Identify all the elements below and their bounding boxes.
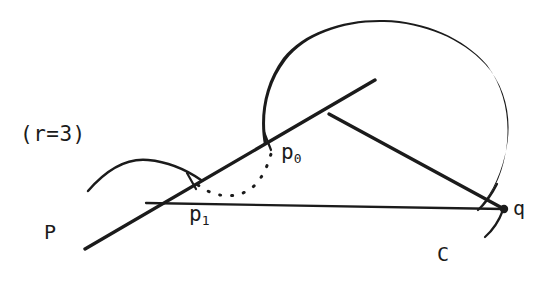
radius-note-label: (r=3) [20, 124, 86, 145]
ray-P-label: P [44, 222, 56, 242]
ray-from-P [85, 80, 375, 249]
curve-C-label: C [437, 244, 449, 264]
point-p1-label: p1 [189, 204, 209, 227]
figure-root: (r=3) p0 p1 P q C [0, 0, 543, 282]
point-p1-subscript: 1 [202, 213, 210, 228]
large-circle-C-path [262, 20, 509, 209]
circle-C-tail-below-q [485, 210, 503, 237]
point-p0-letter: p [281, 140, 294, 164]
small-arc-left [88, 160, 201, 191]
point-p0-label: p0 [281, 142, 301, 165]
segment-branch-to-q [329, 114, 504, 209]
point-q-label: q [513, 198, 525, 218]
point-p0-subscript: 0 [294, 151, 302, 166]
point-q-dot [500, 205, 508, 213]
point-p1-letter: p [189, 202, 202, 226]
